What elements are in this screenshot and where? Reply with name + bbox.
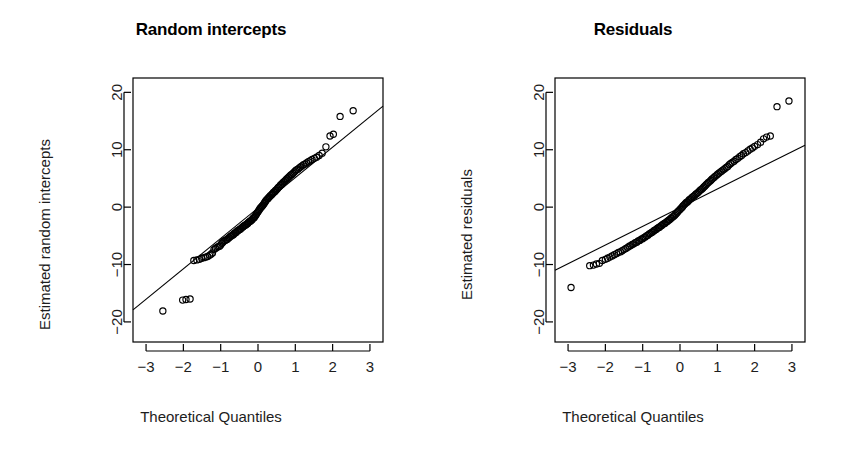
y-tick-label: −10 <box>531 252 548 277</box>
x-axis <box>146 344 370 351</box>
x-tick-labels: −3−2−10123 <box>138 358 375 375</box>
y-tick-labels: −20−1001020 <box>109 84 126 335</box>
y-tick-label: 20 <box>109 84 126 101</box>
x-tick-label: −2 <box>597 358 614 375</box>
x-tick-label: 2 <box>750 358 758 375</box>
y-tick-label: −20 <box>531 309 548 334</box>
y-tick-label: −10 <box>109 252 126 277</box>
data-points <box>160 108 357 315</box>
data-points <box>568 98 792 291</box>
data-point <box>786 98 792 104</box>
y-tick-label: 0 <box>109 203 126 211</box>
x-axis <box>568 344 792 351</box>
x-tick-label: −3 <box>138 358 155 375</box>
x-tick-label: 1 <box>713 358 721 375</box>
x-tick-label: 3 <box>788 358 796 375</box>
data-point <box>774 104 780 110</box>
panel-residuals: Residuals Estimated residuals Theoretica… <box>422 0 844 475</box>
data-point <box>337 113 343 119</box>
data-point <box>767 133 773 139</box>
plot-area-random-intercepts: −3−2−10123 −20−1001020 <box>0 0 422 475</box>
x-tick-label: −1 <box>634 358 651 375</box>
data-point <box>187 296 193 302</box>
y-tick-label: −20 <box>109 309 126 334</box>
x-tick-label: 2 <box>328 358 336 375</box>
y-tick-label: 10 <box>109 141 126 158</box>
x-tick-label: −3 <box>560 358 577 375</box>
x-tick-labels: −3−2−10123 <box>560 358 797 375</box>
data-point <box>350 108 356 114</box>
data-point <box>568 284 574 290</box>
x-tick-label: 1 <box>291 358 299 375</box>
data-point <box>323 144 329 150</box>
x-tick-label: −1 <box>212 358 229 375</box>
plot-area-residuals: −3−2−10123 −20−1001020 <box>422 0 844 475</box>
x-tick-label: 3 <box>366 358 374 375</box>
y-tick-labels: −20−1001020 <box>531 84 548 335</box>
y-tick-label: 20 <box>531 84 548 101</box>
x-tick-label: 0 <box>254 358 262 375</box>
x-tick-label: −2 <box>175 358 192 375</box>
panel-random-intercepts: Random intercepts Estimated random inter… <box>0 0 422 475</box>
y-tick-label: 0 <box>531 203 548 211</box>
y-tick-label: 10 <box>531 141 548 158</box>
data-point <box>160 308 166 314</box>
x-tick-label: 0 <box>676 358 684 375</box>
qq-plot-figure: Random intercepts Estimated random inter… <box>0 0 844 475</box>
